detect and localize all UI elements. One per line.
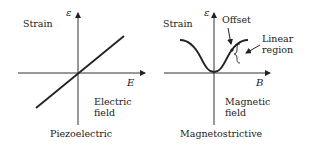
magneto-axes xyxy=(164,13,270,125)
piezo-x-symbol: E xyxy=(127,77,134,88)
linear-region-arrow-icon xyxy=(246,45,260,53)
magneto-title: Magnetostrictive xyxy=(180,128,262,139)
piezo-x-label-line1: Electric xyxy=(94,96,132,107)
offset-arrow-icon xyxy=(228,28,231,44)
magneto-x-label-line1: Magnetic xyxy=(225,96,270,107)
magneto-y-label: Strain xyxy=(163,18,193,29)
linear-region-label-line1: Linear xyxy=(262,33,293,44)
piezo-y-symbol: ε xyxy=(66,7,71,18)
piezo-title: Piezoelectric xyxy=(50,128,112,139)
magneto-y-symbol: ε xyxy=(204,7,209,18)
linear-region-label-line2: region xyxy=(262,44,293,55)
piezo-y-label: Strain xyxy=(23,18,53,29)
offset-label: Offset xyxy=(222,14,251,25)
magneto-x-symbol: B xyxy=(256,77,263,88)
piezo-x-label-line2: field xyxy=(94,107,115,118)
offset-point xyxy=(230,48,233,51)
magneto-x-label-line2: field xyxy=(225,107,246,118)
